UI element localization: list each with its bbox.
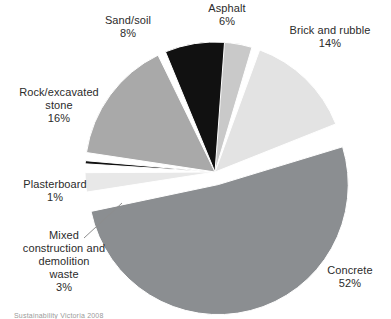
slice-label-plasterboard: Plasterboard 1%	[0, 178, 110, 204]
slice-label-rock-excavated-stone: Rock/excavated stone 16%	[0, 86, 118, 125]
slice-label-brick-and-rubble: Brick and rubble 14%	[274, 24, 386, 50]
slice-label-asphalt: Asphalt 6%	[187, 2, 267, 28]
slice-label-concrete: Concrete 52%	[312, 264, 388, 290]
slice-label-sand-soil: Sand/soil 8%	[84, 14, 172, 40]
slice-label-mixed-construction-waste: Mixed construction and demolition waste …	[0, 229, 128, 294]
chart-source-caption: Sustainability Victoria 2008	[14, 312, 104, 319]
